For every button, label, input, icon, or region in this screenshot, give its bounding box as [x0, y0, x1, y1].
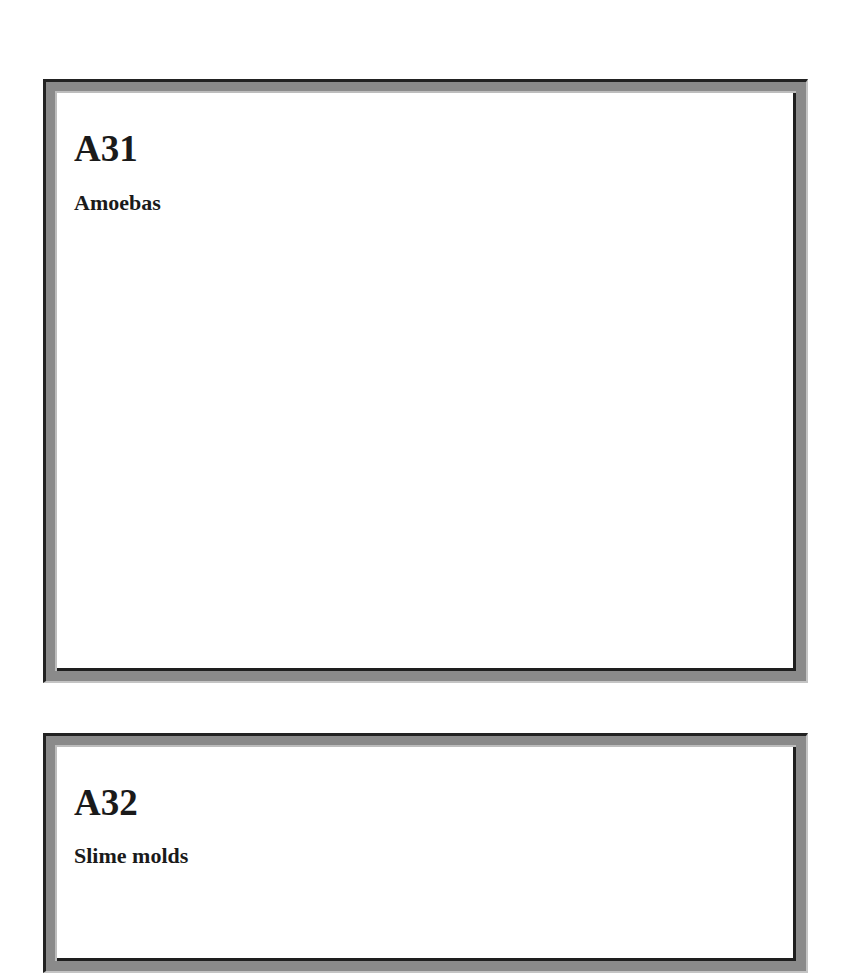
- card-code: A31: [74, 130, 138, 167]
- card-content-a32: A32 Slime molds: [57, 747, 796, 961]
- card-frame-a31: A31 Amoebas: [43, 79, 808, 683]
- card-code: A32: [74, 784, 138, 821]
- card-frame-a32: A32 Slime molds: [43, 733, 808, 973]
- card-label: Amoebas: [74, 192, 161, 214]
- card-content-a31: A31 Amoebas: [57, 93, 796, 671]
- card-label: Slime molds: [74, 845, 188, 867]
